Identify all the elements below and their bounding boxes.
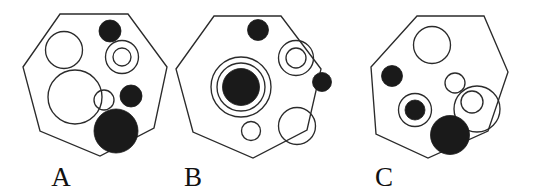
circle-ring-outer-right [106,41,139,74]
circle-filled-in-ring [405,100,425,120]
circle-filled-bottom [94,109,138,153]
circle-filled-bottom-large [431,116,470,155]
circle-open-small-center [94,90,114,110]
figure-a-circles [46,20,143,153]
figure-c-circles [382,27,501,155]
figure-b-circles [211,20,332,145]
circle-filled-right [313,73,332,92]
figure-a-group: A [23,14,167,192]
circle-filled-top [99,20,121,42]
heptagon-figures-diagram: A B C [0,0,538,195]
circle-ring-inner-upper-right [286,48,306,68]
figure-b-label: B [184,162,202,192]
circle-ring-outer-upper-right [279,41,314,76]
figure-stage: A B C [0,0,538,195]
circle-open-upper-left [46,32,83,69]
figure-c-group: C [371,16,508,192]
circle-filled-left [382,66,403,87]
figure-c-label: C [375,162,393,192]
circle-filled-center-left [223,69,260,106]
circle-ring-inner-right [113,48,131,66]
circle-open-top [414,27,451,64]
circle-open-small-center [445,73,465,93]
figure-a-label: A [51,162,71,192]
circle-filled-top [248,20,269,41]
circle-open-bottom-small [242,122,261,141]
circle-ring-inner-right [461,91,483,113]
circle-filled-right [120,85,142,107]
figure-b-group: B [176,16,332,192]
circle-open-bottom-large [279,108,316,145]
